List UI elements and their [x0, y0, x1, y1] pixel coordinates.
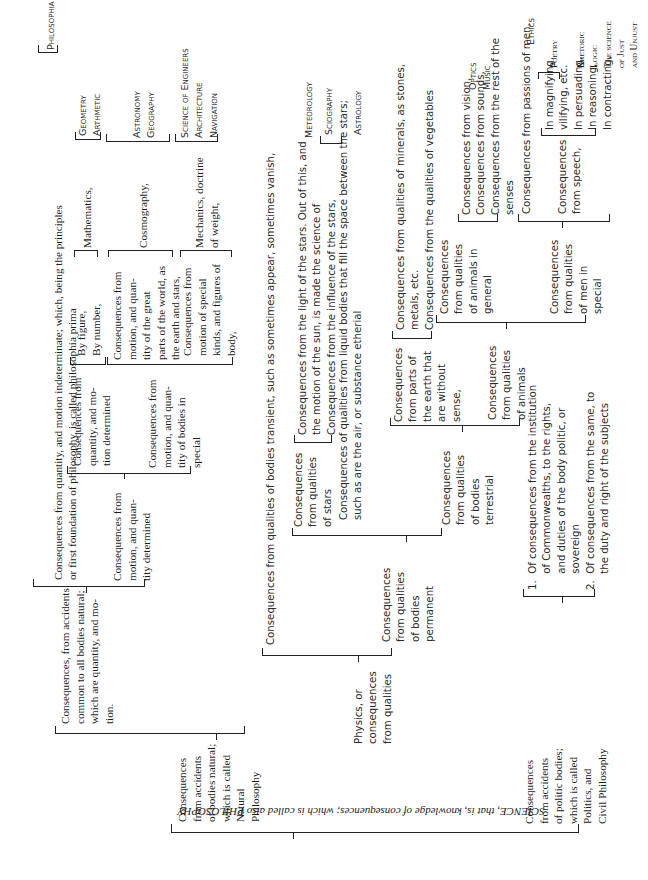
determined-bracket-tick-l: [67, 466, 68, 473]
terrestrial-text: Consequences from qualities of bodies te…: [440, 435, 498, 525]
speech-text: Consequences from speech,: [556, 140, 585, 214]
determined-bracket-stem: [124, 473, 125, 479]
poetry-tick-l: [538, 72, 539, 79]
minerals-bracket-bar: [392, 338, 432, 339]
physics-bracket-stem: [358, 655, 359, 662]
physics-bracket-tick-l: [262, 648, 263, 655]
terrestrial-bracket-stem: [462, 425, 463, 432]
stars-bracket-tick-r: [331, 435, 332, 442]
politic-bracket-bar: [523, 596, 595, 597]
cosmo-leaves: Astronomy Geography: [130, 80, 159, 138]
politic-tick-r: [594, 589, 595, 596]
leaf-meteorology: Meteorology: [302, 60, 316, 138]
mech-leaf-bracket-bar: [175, 141, 218, 142]
qty-motion-text: Consequences from quantity, and mo- tion…: [70, 370, 114, 466]
stars-bracket-tick-l: [294, 435, 295, 442]
common-bracket-stem: [86, 586, 87, 593]
mathematics-label: Mathematics,: [80, 178, 95, 248]
mech-bracket-tick-l: [180, 250, 181, 257]
natural-philosophy-label: Consequences from accidents of bodies na…: [175, 710, 263, 822]
senses-tick-r: [497, 214, 498, 221]
men-tick-r: [609, 214, 610, 221]
politic-stem: [562, 596, 563, 603]
mech-leaf-tick-l: [175, 134, 176, 141]
root-bracket-tick-r: [578, 824, 579, 832]
speech-leaves: Poetry Rhetoric Logic The science of Jus…: [548, 0, 642, 68]
natural-bracket-stem: [216, 733, 217, 740]
mech-leaves: Science of Engineers Architecture Naviga…: [178, 30, 221, 138]
special-bracket-tick-r: [232, 357, 233, 364]
without-sense-text: Consequences from parts of the earth tha…: [392, 342, 464, 422]
permanent-bracket-tick-l: [292, 528, 293, 535]
cosmo-bracket-tick-l: [108, 250, 109, 257]
cosmo-bracket-tick-r: [172, 250, 173, 257]
math-bracket-tick-l: [74, 250, 75, 257]
math-bracket-tick-r: [97, 250, 98, 257]
special-bracket-tick-l: [107, 357, 108, 364]
common-bracket-bar: [33, 586, 145, 587]
senses-leaves: Optics Music: [466, 40, 495, 90]
leaf-philosophia-prima: Philosophia Prima: [44, 0, 58, 50]
common-bracket-tick-l: [33, 579, 34, 586]
natural-bracket-tick-l: [55, 726, 56, 733]
stars-bracket-bar: [294, 442, 332, 443]
qty-bracket-tick-l: [70, 357, 71, 364]
leaf-ethics: Ethics: [524, 0, 538, 45]
speech-tick-l: [541, 128, 542, 135]
terrestrial-bracket-tick-l: [390, 418, 391, 425]
common-accidents: Consequences, from accidents common to a…: [58, 600, 116, 724]
senses-tick-l: [458, 214, 459, 221]
prima-bracket-tick-l: [38, 45, 39, 52]
math-leaf-bracket-bar: [75, 139, 101, 140]
qty-bracket-bar: [70, 364, 106, 365]
animals-general-text: Consequences from qualities of animals i…: [438, 224, 496, 314]
minerals-tick-r: [431, 331, 432, 338]
liquid-text: Consequences of qualities from liquid bo…: [337, 130, 366, 520]
cosmo-leaf-bracket-bar: [106, 141, 170, 142]
permanent-bracket-tick-r: [441, 528, 442, 535]
animals-text: Consequences from qualities of animals: [486, 332, 529, 420]
mechanics-label: Mechanics, doctrine of weight,: [192, 150, 221, 248]
mech-bracket-tick-r: [231, 250, 232, 257]
cosmography-label: Cosmography,: [136, 180, 151, 248]
cosmo-bracket-bar: [108, 250, 173, 251]
animals-stem: [506, 322, 507, 329]
passions-text: Consequences from passions of men,: [520, 52, 534, 214]
qty-bracket-tick-r: [105, 357, 106, 364]
senses-bracket-bar: [458, 221, 498, 222]
politic-items: 1. Of consequences from the institution …: [526, 450, 612, 590]
poetry-tick-r: [559, 72, 560, 79]
star-items: Consequences from the light of the stars…: [296, 150, 339, 435]
physics-bracket-tick-r: [391, 648, 392, 655]
permanent-text: Consequences from qualities of bodies pe…: [380, 560, 438, 642]
natural-bracket-tick-r: [244, 726, 245, 733]
prima-bracket-bar: [38, 52, 58, 53]
root-bracket-bar: [171, 832, 579, 833]
physics-bracket-bar: [262, 655, 392, 656]
men-bracket-bar: [518, 221, 610, 222]
animals-bracket-bar: [436, 322, 586, 323]
by-figure-number: By figure, By number,: [74, 296, 103, 356]
root-bracket-stem: [293, 832, 294, 839]
politic-bodies-label: Consequences from accidents of politic b…: [522, 712, 610, 824]
math-bracket-bar: [74, 250, 98, 251]
men-special-text: Consequences from qualities of men in sp…: [548, 224, 606, 314]
terrestrial-bracket-bar: [390, 425, 520, 426]
root-bracket-tick-l: [171, 824, 172, 832]
animals-tick-l: [436, 315, 437, 322]
men-stem: [562, 221, 563, 228]
minerals-tick-l: [392, 331, 393, 338]
stars-text: Consequences from qualities of stars: [292, 445, 335, 527]
senses-text: Consequences from vision, Consequences f…: [460, 95, 518, 215]
special-kinds-text: Consequences from motion of special kind…: [180, 252, 238, 356]
permanent-bracket-stem: [406, 535, 407, 542]
speech-items: In magnifying, vilifying, etc. In persua…: [543, 58, 615, 130]
politic-tick-l: [523, 589, 524, 596]
transient-text: Consequences from qualities of bodies tr…: [264, 190, 278, 645]
permanent-bracket-bar: [292, 535, 442, 536]
determined-bracket-bar: [67, 473, 191, 474]
determined-text: Consequences from motion, and quan- tity…: [110, 485, 154, 581]
math-leaves: Geometry Arthmetic: [76, 80, 105, 136]
minerals-text: Consequences from qualities of minerals,…: [394, 130, 437, 330]
mech-bracket-bar: [180, 250, 232, 251]
